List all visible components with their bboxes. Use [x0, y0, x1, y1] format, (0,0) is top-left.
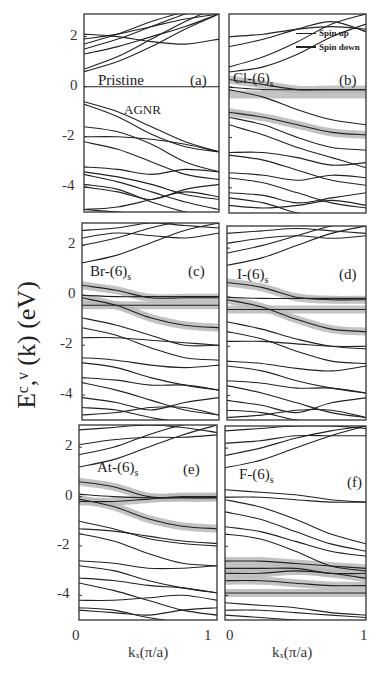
band-line	[82, 378, 219, 391]
band-line	[79, 595, 217, 600]
spin-down-line-icon	[296, 46, 316, 48]
band-line	[84, 172, 219, 200]
x-axis-label-left: kₓ(π/a)	[128, 644, 168, 661]
band-line	[84, 14, 219, 54]
panel-d	[227, 221, 366, 425]
y-tick-c--4: -4	[60, 385, 73, 402]
band-line	[225, 435, 366, 443]
band-line	[84, 192, 219, 210]
band-line	[227, 409, 366, 417]
band-line	[79, 608, 217, 625]
band-line	[225, 426, 366, 456]
y-tick-e--2: -2	[57, 536, 70, 553]
band-line	[229, 173, 366, 181]
y-tick-c-2: 2	[68, 235, 76, 252]
panel-letter-c: (c)	[188, 263, 205, 280]
band-line	[82, 233, 219, 238]
y-axis-label: Eᶜ,ᵛ (k) (eV)	[12, 260, 42, 430]
spin-up-line-icon	[296, 33, 316, 34]
panel-title-c: Br-(6)s	[90, 263, 131, 282]
band-line	[79, 435, 217, 445]
band-line	[225, 512, 366, 551]
band-line	[225, 426, 366, 468]
y-tick-e--4: -4	[57, 585, 70, 602]
panel-title-a: Pristine	[98, 72, 144, 89]
band-line	[229, 152, 366, 165]
band-line	[82, 223, 219, 231]
y-tick-a--4: -4	[62, 177, 75, 194]
band-line	[82, 216, 219, 246]
band-line	[225, 603, 366, 615]
panel-letter-a: (a)	[190, 72, 207, 89]
x-tick-0-right: 0	[226, 627, 234, 644]
panel-title-b: Cl-(6)s	[233, 70, 274, 89]
legend: Spin up Spin down	[296, 26, 360, 54]
band-line	[225, 500, 366, 544]
y-tick-a--2: -2	[62, 127, 75, 144]
panel-letter-e: (e)	[183, 461, 200, 478]
panel-title-d: I-(6)s	[237, 266, 268, 285]
band-line	[84, 174, 219, 209]
x-tick-0-left: 0	[72, 627, 80, 644]
panel-letter-f: (f)	[347, 474, 362, 491]
panel-title-f: F-(6)s	[239, 466, 274, 485]
band-line	[225, 490, 366, 502]
x-tick-1-right: 1	[360, 627, 368, 644]
band-line	[82, 338, 219, 346]
band-structure-figure	[0, 0, 386, 675]
band-line	[227, 236, 366, 243]
y-tick-c--2: -2	[60, 335, 73, 352]
y-tick-a-2: 2	[70, 27, 78, 44]
band-line	[225, 497, 366, 502]
panel-e	[79, 420, 217, 625]
panel-title-e: At-(6)s	[97, 459, 138, 478]
y-tick-c-0: 0	[68, 285, 76, 302]
highlight-band	[227, 300, 366, 332]
panel-c	[82, 216, 219, 426]
y-tick-e-2: 2	[65, 437, 73, 454]
band-line	[227, 341, 366, 346]
legend-spin-down: Spin down	[296, 40, 360, 54]
x-axis-label-right: kₓ(π/a)	[272, 644, 312, 661]
legend-spin-up: Spin up	[296, 26, 360, 40]
band-line	[227, 229, 366, 234]
band-line	[84, 210, 219, 220]
y-tick-a-0: 0	[70, 77, 78, 94]
y-tick-e-0: 0	[65, 487, 73, 504]
band-line	[82, 407, 219, 415]
panel-f	[225, 426, 366, 625]
panel-letter-b: (b)	[339, 72, 357, 89]
band-line	[84, 167, 219, 175]
band-line	[79, 583, 217, 615]
panel-subtitle-a: AGNR	[124, 102, 161, 118]
band-line	[229, 200, 366, 208]
band-line	[227, 381, 366, 393]
band-line	[227, 366, 366, 393]
x-tick-1-left: 1	[204, 627, 212, 644]
panel-letter-d: (d)	[339, 266, 357, 283]
